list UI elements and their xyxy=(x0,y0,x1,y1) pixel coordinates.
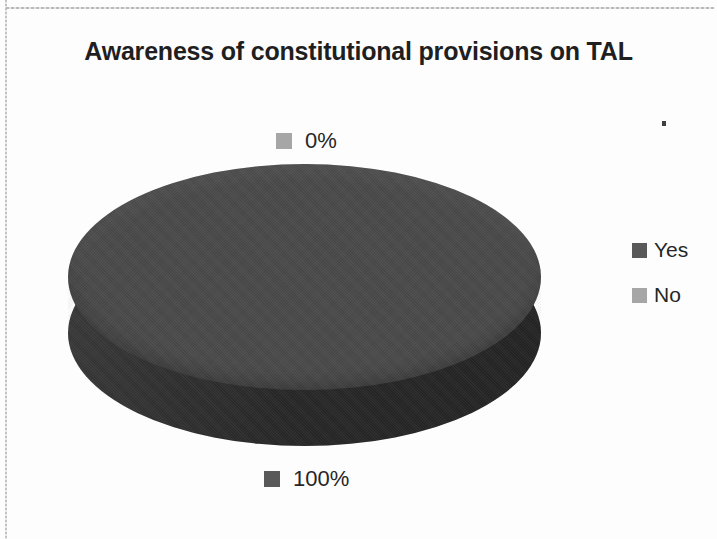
scan-speck-artifact xyxy=(662,121,666,126)
data-label-yes-value: 100% xyxy=(293,466,349,492)
data-label-swatch-yes-icon xyxy=(264,471,280,487)
chart-legend: Yes No xyxy=(632,238,688,307)
page-frame-left-rule xyxy=(5,0,7,539)
data-label-swatch-no-icon xyxy=(276,133,292,149)
legend-item-no: No xyxy=(632,283,688,307)
legend-label-yes: Yes xyxy=(654,238,688,262)
legend-item-yes: Yes xyxy=(632,238,688,262)
chart-canvas: Awareness of constitutional provisions o… xyxy=(0,0,717,539)
data-label-no: 0% xyxy=(276,128,337,154)
legend-label-no: No xyxy=(654,283,681,307)
data-label-no-value: 0% xyxy=(305,128,337,154)
chart-title: Awareness of constitutional provisions o… xyxy=(0,37,717,66)
pie-chart-graphic xyxy=(68,164,541,446)
legend-swatch-yes-icon xyxy=(632,243,647,258)
page-frame-top-rule xyxy=(6,7,714,9)
pie-slice-yes-top-face xyxy=(68,164,541,390)
legend-swatch-no-icon xyxy=(632,288,647,303)
data-label-yes: 100% xyxy=(264,466,349,492)
